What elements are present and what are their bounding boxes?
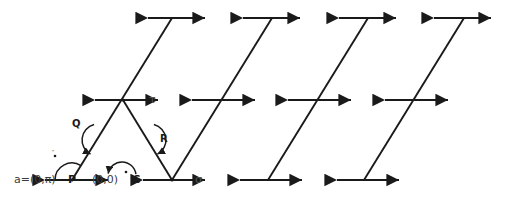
prime-tick	[54, 155, 57, 158]
arrow-rows-group	[45, 18, 491, 180]
arc-Q	[82, 125, 94, 155]
point-s-label: S	[133, 174, 141, 185]
arc-q-label: Q	[72, 119, 81, 129]
diagram-canvas: a=(0,π) P (0,0) S Q R τ σ ′	[0, 0, 506, 205]
prime-tick-label: ′	[52, 150, 54, 159]
diag-4-up	[364, 18, 464, 180]
point-p-label: P	[68, 174, 76, 185]
sigma-label: σ	[195, 174, 202, 185]
diag-3-up	[268, 18, 368, 180]
origin-coordinate-label: (0,0)	[92, 174, 118, 185]
vertex-dot-tau	[121, 98, 124, 101]
tau-label: τ	[149, 94, 156, 105]
arc-r-label: R	[160, 134, 168, 144]
angle-arcs-group	[55, 125, 166, 181]
diag-2-up	[172, 18, 272, 180]
origin-dot	[125, 171, 128, 174]
vertex-dot-sigma	[170, 178, 173, 181]
left-point-coordinate-label: a=(0,π)	[14, 174, 56, 185]
